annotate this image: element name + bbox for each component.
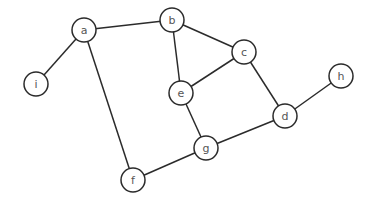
node-label: d <box>282 110 289 123</box>
node-e: e <box>169 81 193 105</box>
edge-a-b <box>84 20 172 30</box>
node-label: h <box>338 70 345 83</box>
nodes-group: abcdefghi <box>24 8 353 192</box>
node-g: g <box>194 136 218 160</box>
node-label: a <box>81 24 88 37</box>
node-d: d <box>273 104 297 128</box>
node-a: a <box>72 18 96 42</box>
node-label: g <box>203 142 210 155</box>
node-h: h <box>329 64 353 88</box>
node-label: i <box>34 78 37 91</box>
node-i: i <box>24 72 48 96</box>
node-label: e <box>178 87 185 100</box>
edge-a-f <box>84 30 133 180</box>
node-label: b <box>169 14 176 27</box>
edge-d-g <box>206 116 285 148</box>
node-f: f <box>121 168 145 192</box>
node-b: b <box>160 8 184 32</box>
node-c: c <box>232 40 256 64</box>
node-label: c <box>241 46 247 59</box>
graph-diagram: abcdefghi <box>0 0 372 205</box>
